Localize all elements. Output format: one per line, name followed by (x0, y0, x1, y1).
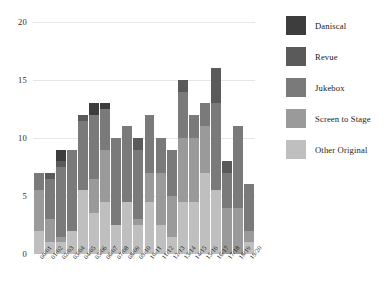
bar-stack[interactable] (211, 68, 221, 254)
bar-segment[interactable] (34, 190, 44, 231)
x-label-slot: 05/06 (88, 254, 99, 292)
bar-segment[interactable] (111, 138, 121, 225)
bar-segment[interactable] (167, 150, 177, 196)
bar-stack[interactable] (178, 80, 188, 254)
bar-segment[interactable] (100, 109, 110, 150)
bar-segment[interactable] (56, 150, 66, 162)
legend-item[interactable]: Other Original (286, 140, 367, 159)
bar-slot[interactable] (66, 22, 77, 254)
bar-stack[interactable] (145, 115, 155, 254)
bar-stack[interactable] (167, 150, 177, 254)
bar-segment[interactable] (244, 184, 254, 230)
bar-segment[interactable] (45, 179, 55, 220)
bar-segment[interactable] (89, 115, 99, 179)
bar-slot[interactable] (188, 22, 199, 254)
x-label-slot: 04/05 (77, 254, 88, 292)
bar-slot[interactable] (77, 22, 88, 254)
x-label-slot: 03/04 (66, 254, 77, 292)
legend-swatch (286, 16, 306, 35)
bar-slot[interactable] (155, 22, 166, 254)
bar-stack[interactable] (200, 103, 210, 254)
bar-slot[interactable] (133, 22, 144, 254)
bar-segment[interactable] (156, 173, 166, 225)
bar-stack[interactable] (78, 115, 88, 254)
bar-segment[interactable] (189, 138, 199, 202)
legend-item[interactable]: Daniscal (286, 16, 346, 35)
bar-segment[interactable] (145, 173, 155, 202)
bar-segment[interactable] (89, 103, 99, 115)
bar-segment[interactable] (200, 126, 210, 172)
bar-stack[interactable] (122, 126, 132, 254)
bar-segment[interactable] (45, 219, 55, 242)
bar-segment[interactable] (244, 231, 254, 243)
bar-segment[interactable] (167, 196, 177, 237)
bar-slot[interactable] (244, 22, 255, 254)
bar-stack[interactable] (156, 138, 166, 254)
bar-segment[interactable] (89, 179, 99, 214)
legend-swatch (286, 78, 306, 97)
bar-segment[interactable] (178, 138, 188, 202)
bar-segment[interactable] (222, 161, 232, 173)
bar-stack[interactable] (67, 150, 77, 254)
x-label-slot: 12/13 (166, 254, 177, 292)
bar-segment[interactable] (133, 138, 143, 150)
bar-segment[interactable] (211, 103, 221, 190)
bar-segment[interactable] (211, 68, 221, 103)
bar-stack[interactable] (111, 138, 121, 254)
bar-stack[interactable] (133, 138, 143, 254)
x-label-slot: 06/07 (100, 254, 111, 292)
bar-segment[interactable] (34, 173, 44, 190)
bar-segment[interactable] (67, 150, 77, 231)
legend: DaniscalRevueJukeboxScreen to StageOther… (286, 16, 386, 162)
bar-segment[interactable] (78, 121, 88, 191)
bar-slot[interactable] (55, 22, 66, 254)
bar-slot[interactable] (166, 22, 177, 254)
bar-stack[interactable] (56, 150, 66, 254)
bar-slot[interactable] (44, 22, 55, 254)
bar-segment[interactable] (200, 103, 210, 126)
bar-segment[interactable] (145, 115, 155, 173)
bar-segment[interactable] (178, 80, 188, 92)
bar-slot[interactable] (222, 22, 233, 254)
x-label-slot: 17/18 (222, 254, 233, 292)
legend-item[interactable]: Screen to Stage (286, 109, 371, 128)
bar-stack[interactable] (100, 103, 110, 254)
legend-item[interactable]: Revue (286, 47, 338, 66)
bar-segment[interactable] (200, 173, 210, 254)
bar-slot[interactable] (211, 22, 222, 254)
y-tick-label: 5 (23, 191, 27, 201)
legend-label: Jukebox (315, 83, 345, 93)
bar-segment[interactable] (178, 92, 188, 138)
bar-stack[interactable] (233, 126, 243, 254)
bar-slot[interactable] (100, 22, 111, 254)
bar-segment[interactable] (222, 173, 232, 208)
bar-segment[interactable] (100, 150, 110, 202)
bar-stack[interactable] (34, 173, 44, 254)
bar-segment[interactable] (122, 126, 132, 201)
bar-segment[interactable] (189, 115, 199, 138)
x-label-slot: 10/11 (144, 254, 155, 292)
bar-segment[interactable] (133, 150, 143, 220)
bar-slot[interactable] (233, 22, 244, 254)
bar-stack[interactable] (89, 103, 99, 254)
y-tick-label: 10 (18, 133, 27, 143)
bar-slot[interactable] (88, 22, 99, 254)
legend-label: Other Original (315, 145, 367, 155)
bar-stack[interactable] (45, 173, 55, 254)
bar-slot[interactable] (199, 22, 210, 254)
x-label-slot: 11/12 (155, 254, 166, 292)
bar-stack[interactable] (189, 115, 199, 254)
bar-slot[interactable] (111, 22, 122, 254)
bar-stack[interactable] (222, 161, 232, 254)
bar-segment[interactable] (56, 167, 66, 237)
x-label-slot: 02/03 (55, 254, 66, 292)
x-label-slot: 18/19 (233, 254, 244, 292)
x-axis: 00/0101/0202/0303/0404/0505/0606/0707/08… (33, 254, 255, 292)
bar-slot[interactable] (33, 22, 44, 254)
bar-slot[interactable] (144, 22, 155, 254)
bar-segment[interactable] (233, 126, 243, 207)
bar-slot[interactable] (122, 22, 133, 254)
legend-item[interactable]: Jukebox (286, 78, 345, 97)
bar-slot[interactable] (177, 22, 188, 254)
bar-segment[interactable] (156, 138, 166, 173)
